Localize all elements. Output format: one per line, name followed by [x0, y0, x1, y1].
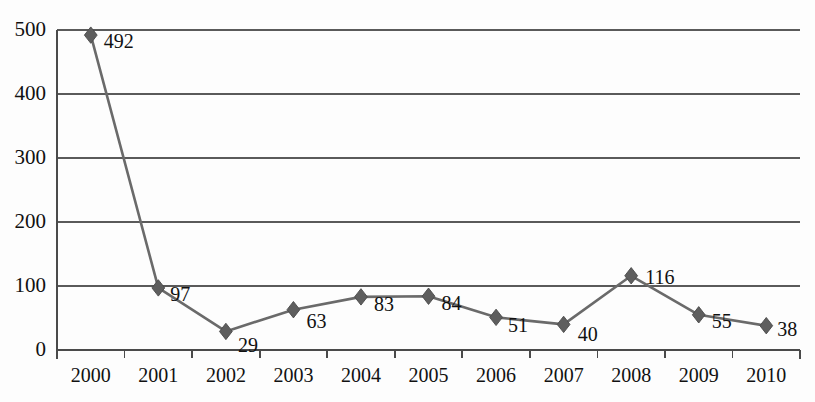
data-value-label-2001: 97	[170, 283, 190, 305]
data-marker-2006	[490, 309, 503, 325]
gridlines-group	[57, 30, 800, 286]
data-marker-2002	[219, 323, 232, 339]
data-marker-2007	[557, 316, 570, 332]
x-tick-label-2009: 2009	[679, 364, 719, 386]
y-axis-tick-labels-group: 0100200300400500	[15, 17, 47, 361]
y-tick-label-0: 0	[36, 337, 47, 361]
data-value-label-2002: 29	[238, 334, 258, 356]
data-value-label-2010: 38	[777, 318, 797, 340]
x-tick-label-2010: 2010	[746, 364, 786, 386]
x-tick-label-2007: 2007	[544, 364, 584, 386]
data-value-label-2009: 55	[712, 310, 732, 332]
data-value-label-2007: 40	[578, 323, 598, 345]
y-tick-label-500: 500	[15, 17, 47, 41]
y-tick-label-200: 200	[15, 209, 47, 233]
x-tick-label-2008: 2008	[611, 364, 651, 386]
x-tick-label-2005: 2005	[409, 364, 449, 386]
data-marker-2009	[692, 307, 705, 323]
x-tick-label-2000: 2000	[71, 364, 111, 386]
data-marker-2004	[355, 289, 368, 305]
data-marker-2010	[760, 317, 773, 333]
data-marker-2008	[625, 268, 638, 284]
x-axis-ticks-group	[57, 350, 800, 359]
data-value-label-2000: 492	[104, 30, 134, 52]
line-chart: 0100200300400500 20002001200220032004200…	[0, 0, 815, 402]
data-marker-2003	[287, 301, 300, 317]
x-tick-label-2004: 2004	[341, 364, 381, 386]
chart-canvas: 0100200300400500 20002001200220032004200…	[0, 0, 815, 402]
y-tick-label-100: 100	[15, 273, 47, 297]
x-axis-tick-labels-group: 2000200120022003200420052006200720082009…	[71, 364, 787, 386]
x-tick-label-2006: 2006	[476, 364, 516, 386]
data-value-label-2003: 63	[306, 310, 326, 332]
data-marker-2001	[152, 280, 165, 296]
data-value-labels-group: 492972963838451401165538	[104, 30, 798, 356]
data-marker-2005	[422, 288, 435, 304]
data-value-label-2008: 116	[645, 266, 674, 288]
data-value-label-2004: 83	[374, 293, 394, 315]
data-value-label-2006: 51	[508, 314, 528, 336]
x-tick-label-2002: 2002	[206, 364, 246, 386]
y-tick-label-400: 400	[15, 81, 47, 105]
data-value-label-2005: 84	[442, 292, 462, 314]
x-tick-label-2001: 2001	[138, 364, 178, 386]
y-tick-label-300: 300	[15, 145, 47, 169]
x-tick-label-2003: 2003	[273, 364, 313, 386]
